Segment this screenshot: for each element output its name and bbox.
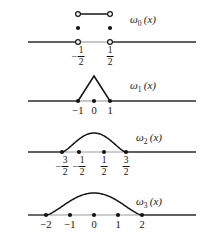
tick-label-omega3: −2 (40, 220, 51, 231)
numerator: 1 (101, 156, 108, 166)
integer-value: 1 (115, 219, 120, 230)
omega-symbol: ω (136, 195, 144, 207)
integer-value: 0 (91, 219, 96, 230)
denominator: 2 (123, 168, 130, 178)
tick-label-omega1: 0 (91, 106, 96, 117)
open-circle-top (76, 12, 81, 17)
omega-argument: (x) (142, 13, 156, 25)
integer-value: 2 (139, 219, 144, 230)
tick-label-omega0: −12 (72, 46, 85, 67)
numerator: 1 (107, 46, 114, 56)
filled-dot (44, 213, 48, 217)
denominator: 2 (107, 58, 114, 68)
tick-label-omega2: 12 (101, 156, 108, 177)
bump-curve (62, 133, 126, 152)
omega-symbol: ω (130, 13, 138, 25)
denominator: 2 (78, 58, 85, 68)
integer-value: 1 (107, 105, 112, 116)
denominator: 2 (101, 168, 108, 178)
denominator: 2 (62, 168, 69, 178)
minus-sign: − (56, 162, 62, 172)
filled-dot (76, 26, 80, 30)
integer-value: −1 (64, 219, 75, 230)
bump-curve (46, 193, 142, 215)
integer-value: −1 (72, 105, 83, 116)
tick-label-omega2: −12 (73, 156, 86, 177)
tick-label-omega3: −1 (64, 220, 75, 231)
filled-dot (124, 150, 128, 154)
minus-sign: − (72, 52, 78, 62)
filled-dot (60, 150, 64, 154)
tick-label-omega3: 1 (115, 220, 120, 231)
tick-label-omega2: −32 (56, 156, 69, 177)
omega-symbol: ω (130, 79, 138, 91)
omega-argument: (x) (148, 195, 162, 207)
panel-omega1 (28, 76, 196, 103)
figure-canvas (0, 0, 205, 251)
filled-dot (108, 26, 112, 30)
fraction: 12 (107, 46, 114, 67)
integer-value: 0 (91, 105, 96, 116)
function-label-omega1: ω1 (x) (130, 80, 156, 94)
omega-argument: (x) (142, 79, 156, 91)
function-label-omega2: ω2 (x) (136, 132, 162, 146)
filled-dot (102, 150, 106, 154)
tick-label-omega0: 12 (107, 46, 114, 67)
numerator: 1 (79, 156, 86, 166)
minus-sign: − (73, 162, 79, 172)
function-label-omega3: ω3 (x) (136, 196, 162, 210)
mollifier-basis-functions-figure: ω0 (x)ω1 (x)ω2 (x)ω3 (x)−1212−101−32−121… (0, 0, 205, 251)
fraction: 12 (79, 156, 86, 177)
tick-label-omega3: 0 (91, 220, 96, 231)
filled-dot (92, 99, 96, 103)
filled-dot (76, 99, 80, 103)
fraction: 32 (62, 156, 69, 177)
triangle-curve (78, 76, 110, 101)
numerator: 1 (78, 46, 85, 56)
filled-dot (140, 213, 144, 217)
open-circle-top (108, 12, 113, 17)
filled-dot (77, 150, 81, 154)
tick-label-omega1: −1 (72, 106, 83, 117)
tick-label-omega2: 32 (123, 156, 130, 177)
omega-argument: (x) (148, 131, 162, 143)
open-circle-axis (76, 40, 81, 45)
fraction: 32 (123, 156, 130, 177)
panel-omega0 (28, 12, 196, 45)
filled-dot (108, 99, 112, 103)
open-circle-axis (108, 40, 113, 45)
numerator: 3 (62, 156, 69, 166)
fraction: 12 (78, 46, 85, 67)
panel-omega3 (28, 193, 196, 217)
function-label-omega0: ω0 (x) (130, 14, 156, 28)
omega-symbol: ω (136, 131, 144, 143)
filled-dot (116, 213, 120, 217)
integer-value: −2 (40, 219, 51, 230)
tick-label-omega3: 2 (139, 220, 144, 231)
tick-label-omega1: 1 (107, 106, 112, 117)
filled-dot (68, 213, 72, 217)
numerator: 3 (123, 156, 130, 166)
denominator: 2 (79, 168, 86, 178)
fraction: 12 (101, 156, 108, 177)
filled-dot (92, 213, 96, 217)
panel-omega2 (28, 133, 196, 154)
